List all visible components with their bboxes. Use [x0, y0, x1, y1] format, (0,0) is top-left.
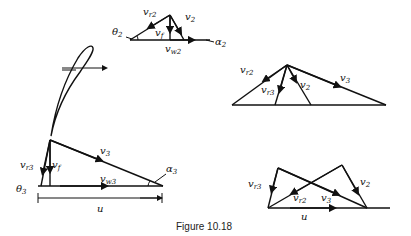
svg-text:vr3: vr3	[261, 84, 275, 97]
svg-text:vr2: vr2	[143, 6, 157, 19]
svg-text:u: u	[97, 203, 103, 214]
svg-text:θ2: θ2	[112, 26, 123, 39]
svg-text:u: u	[301, 211, 307, 222]
figure-caption: Figure 10.18	[176, 221, 233, 232]
svg-text:v3: v3	[321, 192, 332, 205]
svg-text:vr2: vr2	[240, 64, 254, 77]
svg-text:vf: vf	[155, 27, 165, 40]
combined-triangle-top: vr2 vr3 v2 v3	[232, 64, 386, 105]
svg-text:vr3: vr3	[20, 159, 34, 172]
velocity-triangles-diagram: vr2 v2 vf vw2 θ2 α2 vr3 vf v3 vw3 θ3 α3 …	[0, 0, 411, 236]
combined-triangle-bottom: vr3 vr2 v3 v2 u	[248, 165, 390, 222]
outlet-velocity-triangle: vr3 vf v3 vw3 θ3 α3 u	[16, 140, 178, 214]
blade-profile	[51, 46, 105, 136]
svg-text:vw3: vw3	[100, 173, 117, 186]
svg-text:v3: v3	[100, 145, 111, 158]
svg-text:v2: v2	[185, 11, 196, 24]
svg-text:vw2: vw2	[165, 43, 182, 56]
svg-text:v2: v2	[360, 176, 371, 189]
svg-text:α3: α3	[166, 163, 178, 176]
svg-text:α2: α2	[215, 36, 227, 49]
svg-text:vr3: vr3	[248, 178, 262, 191]
inlet-velocity-triangle: vr2 v2 vf vw2 θ2 α2	[112, 6, 227, 56]
svg-text:vf: vf	[52, 159, 62, 172]
svg-text:v3: v3	[340, 72, 351, 85]
svg-text:vr2: vr2	[293, 192, 307, 205]
svg-text:θ3: θ3	[16, 183, 27, 196]
